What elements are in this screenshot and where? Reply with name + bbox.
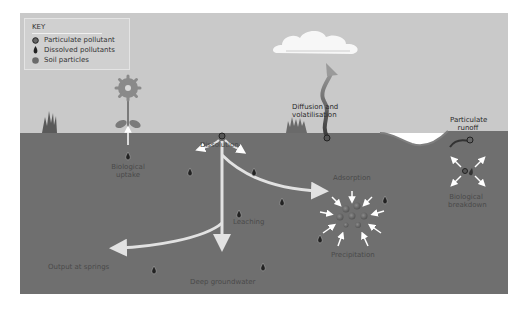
label-line: volatilisation [292, 111, 338, 119]
grass-tuft-left [42, 111, 57, 133]
legend-label: Dissolved pollutants [44, 46, 115, 54]
particulate-pollutant-icon [219, 133, 225, 139]
dissolved-pollutant-icon [32, 46, 39, 54]
label-biological-breakdown: Biological breakdown [448, 193, 484, 209]
volatilisation-arrow [322, 63, 338, 141]
label-deep-groundwater: Deep groundwater [190, 278, 255, 286]
label-line: Diffusion and [292, 103, 338, 111]
label-dissolution: Dissolution [200, 141, 239, 149]
legend-item-dissolved: Dissolved pollutants [32, 46, 115, 54]
label-leaching: Leaching [233, 218, 264, 226]
label-precipitation: Precipitation [331, 251, 375, 259]
legend-title: KEY [32, 23, 45, 31]
legend-divider [32, 33, 102, 34]
legend-item-soil: Soil particles [32, 56, 89, 64]
label-output-springs: Output at springs [48, 263, 109, 271]
legend-item-particulate: Particulate pollutant [32, 36, 115, 44]
label-line: Biological [108, 163, 148, 171]
label-particulate-runoff: Particulate runoff [450, 116, 486, 132]
label-adsorption: Adsorption [333, 174, 371, 182]
particulate-pollutant-icon [32, 37, 39, 44]
legend-label: Particulate pollutant [44, 36, 115, 44]
label-line: uptake [108, 171, 148, 179]
label-line: Particulate [450, 116, 486, 124]
label-diffusion-volatilisation: Diffusion and volatilisation [292, 103, 338, 119]
label-biological-uptake: Biological uptake [108, 163, 148, 179]
label-line: Biological [448, 193, 484, 201]
legend-label: Soil particles [44, 56, 89, 64]
pollutant-pathways-diagram: KEY Particulate pollutant Dissolved poll… [20, 13, 508, 294]
label-line: runoff [450, 124, 486, 132]
soil-particle-icon [32, 57, 39, 64]
legend-key: KEY Particulate pollutant Dissolved poll… [24, 18, 130, 70]
grass-tuft-right [286, 117, 307, 133]
label-line: breakdown [448, 201, 484, 209]
cloud [273, 31, 358, 54]
